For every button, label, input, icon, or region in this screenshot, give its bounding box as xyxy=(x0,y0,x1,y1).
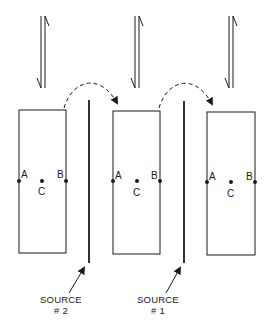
source-1-number: # 1 xyxy=(133,305,183,316)
label-b-3: B xyxy=(246,172,253,182)
label-c-2: C xyxy=(133,188,140,198)
label-a-1: A xyxy=(21,170,28,180)
label-b-2: B xyxy=(151,171,158,181)
source-2-title: SOURCE xyxy=(36,294,86,305)
label-c-1: C xyxy=(38,187,45,197)
source-2-number: # 2 xyxy=(36,305,86,316)
source-1-title: SOURCE xyxy=(133,294,183,305)
transfer-arrow-1 xyxy=(64,83,117,108)
source-1-label: SOURCE # 1 xyxy=(133,294,183,316)
transfer-arrow-2 xyxy=(159,83,212,108)
source-2-label: SOURCE # 2 xyxy=(36,294,86,316)
label-a-3: A xyxy=(209,172,216,182)
motion-arrow-2 xyxy=(131,16,143,88)
source-2-pointer xyxy=(69,268,84,293)
label-a-2: A xyxy=(115,171,122,181)
source-1-pointer xyxy=(166,268,180,293)
label-b-1: B xyxy=(57,170,64,180)
motion-arrow-1 xyxy=(37,16,49,88)
motion-arrow-3 xyxy=(225,16,237,88)
diagram-canvas xyxy=(0,0,271,331)
label-c-3: C xyxy=(227,189,234,199)
